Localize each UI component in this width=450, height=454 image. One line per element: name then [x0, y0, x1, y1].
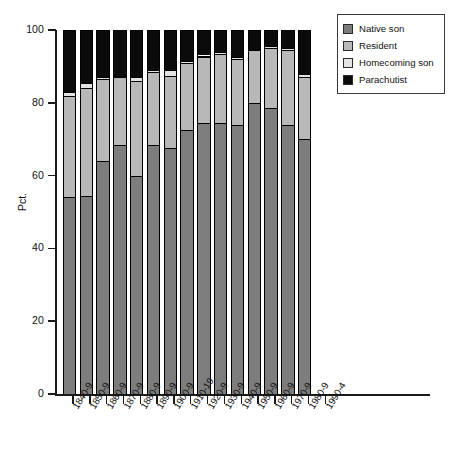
legend-item: Resident [343, 37, 439, 54]
y-tick-mark [48, 102, 56, 104]
bar-1920-9 [197, 30, 210, 394]
y-tick-mark [48, 175, 56, 177]
bar-1860-9 [96, 30, 109, 394]
bar-segment [232, 57, 243, 59]
legend-item: Native son [343, 20, 439, 37]
bar-segment [148, 30, 159, 70]
bar-1930-9 [214, 30, 227, 394]
bar-segment [181, 30, 192, 61]
bar-segment [81, 30, 92, 83]
bar-1880-9 [130, 30, 143, 394]
bar-segment [198, 123, 209, 394]
legend-swatch-icon [343, 24, 353, 34]
bar-segment [299, 139, 310, 394]
legend-swatch-icon [343, 41, 353, 51]
bar-segment [64, 30, 75, 92]
bar-1950-9 [248, 30, 261, 394]
legend-swatch-icon [343, 58, 353, 68]
bar-segment [81, 83, 92, 88]
bar-segment [165, 76, 176, 149]
bar-segment [232, 30, 243, 57]
bar-segment [215, 123, 226, 394]
legend-swatch-icon [343, 75, 353, 85]
bar-segment [148, 70, 159, 72]
bar-segment [81, 88, 92, 195]
legend-item: Parachutist [343, 71, 439, 88]
y-tick-label: 100 [4, 23, 44, 35]
legend-item: Homecoming son [343, 54, 439, 71]
bar-segment [215, 52, 226, 54]
chart-legend: Native sonResidentHomecoming sonParachut… [337, 14, 445, 94]
bar-segment [97, 161, 108, 394]
bar-segment [265, 48, 276, 108]
bar-segment [64, 92, 75, 96]
bar-segment [282, 50, 293, 125]
bar-segment [148, 72, 159, 145]
bar-segment [232, 59, 243, 125]
bar-segment [265, 46, 276, 48]
y-tick-mark [48, 320, 56, 322]
bar-1850-9 [80, 30, 93, 394]
bar-segment [114, 77, 125, 144]
y-tick-label: 40 [4, 241, 44, 253]
bar-1900-9 [164, 30, 177, 394]
bar-1980-9 [298, 30, 311, 394]
bar-segment [282, 125, 293, 394]
legend-label: Resident [359, 40, 397, 51]
bar-1910-19 [180, 30, 193, 394]
bar-segment [64, 96, 75, 198]
bar-segment [215, 30, 226, 52]
y-tick-label: 20 [4, 314, 44, 326]
bar-segment [165, 30, 176, 70]
legend-label: Native son [359, 23, 404, 34]
legend-label: Homecoming son [359, 57, 434, 68]
y-axis-line [55, 30, 57, 395]
bar-segment [131, 77, 142, 81]
bar-segment [249, 103, 260, 394]
bar-segment [148, 145, 159, 394]
bar-segment [114, 30, 125, 76]
bar-1960-9 [264, 30, 277, 394]
y-tick-label: 0 [4, 387, 44, 399]
bar-segment [198, 30, 209, 55]
bar-segment [198, 56, 209, 58]
bar-1970-9 [281, 30, 294, 394]
bar-segment [97, 30, 108, 77]
bar-segment [131, 30, 142, 77]
bar-segment [64, 197, 75, 394]
bar-segment [181, 63, 192, 130]
bar-segment [299, 77, 310, 139]
bar-segment [215, 54, 226, 123]
y-tick-mark [48, 248, 56, 250]
plot-area [61, 30, 330, 394]
y-tick-mark [48, 29, 56, 31]
y-axis-title: Pct. [16, 172, 28, 232]
bar-segment [165, 148, 176, 394]
bar-segment [249, 30, 260, 50]
stacked-bar-chart: Pct. 020406080100 1840-91850-91860-91870… [0, 0, 450, 454]
bar-segment [265, 108, 276, 394]
bar-segment [81, 196, 92, 394]
bar-segment [198, 57, 209, 123]
bar-1890-9 [147, 30, 160, 394]
bar-segment [131, 176, 142, 394]
bar-segment [299, 74, 310, 78]
bar-segment [165, 70, 176, 75]
legend-label: Parachutist [359, 74, 407, 85]
bar-segment [114, 145, 125, 394]
bar-segment [282, 30, 293, 48]
bar-segment [265, 30, 276, 46]
bar-segment [181, 130, 192, 394]
bar-segment [232, 125, 243, 394]
bar-1840-9 [63, 30, 76, 394]
bar-1870-9 [113, 30, 126, 394]
bar-1940-9 [231, 30, 244, 394]
bar-segment [131, 81, 142, 176]
bar-segment [97, 79, 108, 161]
bar-segment [181, 61, 192, 63]
bar-segment [114, 76, 125, 78]
y-tick-label: 80 [4, 96, 44, 108]
bar-segment [249, 50, 260, 103]
bar-segment [282, 48, 293, 50]
y-tick-label: 60 [4, 169, 44, 181]
